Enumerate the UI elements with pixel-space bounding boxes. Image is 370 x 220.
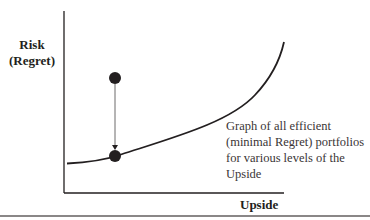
footer-divider — [0, 215, 370, 217]
efficient-portfolio-dot — [109, 150, 121, 162]
diagram-canvas — [0, 0, 370, 220]
arrowhead-icon — [112, 145, 118, 150]
frontier-annotation: Graph of all efficient (minimal Regret) … — [226, 118, 370, 182]
x-axis-label: Upside — [240, 197, 278, 213]
y-axis-label-line1: Risk — [6, 37, 58, 53]
efficient-frontier-diagram: Risk (Regret) Graph of all efficient (mi… — [0, 0, 370, 220]
inefficient-portfolio-dot — [109, 72, 121, 84]
y-axis-label: Risk (Regret) — [6, 37, 58, 69]
y-axis-label-line2: (Regret) — [6, 53, 58, 69]
